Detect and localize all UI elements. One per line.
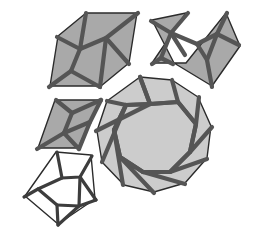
girih-tile-figure: [0, 0, 254, 240]
tile-elongated-hexagon[interactable]: [49, 13, 138, 87]
tile-decagon[interactable]: [96, 77, 212, 193]
tile-pentagon[interactable]: [24, 152, 96, 225]
figure-svg: [0, 0, 254, 240]
tile-bowtie[interactable]: [151, 13, 240, 87]
tile-rhombus[interactable]: [37, 100, 101, 149]
